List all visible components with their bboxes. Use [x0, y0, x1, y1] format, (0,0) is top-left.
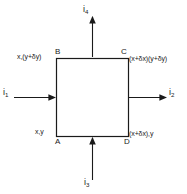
vertex-label-b: B	[55, 48, 60, 56]
coordinate-label-d: (x+δx),y	[129, 130, 153, 137]
coordinate-label-c: (x+δx)(y+δy)	[129, 55, 167, 62]
diagram-canvas	[0, 0, 187, 194]
vertex-label-c: C	[121, 48, 127, 56]
flux-label-i2: i2	[169, 88, 174, 97]
flux-label-i4: i4	[83, 5, 88, 14]
flux-subscript-i2: 2	[171, 91, 174, 98]
flux-label-i1: i1	[3, 88, 8, 97]
current-element-diagram: B C A D x,(y+δy) (x+δx)(y+δy) x,y (x+δx)…	[0, 0, 187, 194]
flux-subscript-i1: 1	[5, 91, 8, 98]
flux-label-i3: i3	[84, 178, 89, 187]
vertex-label-d: D	[124, 138, 130, 146]
coordinate-label-b: x,(y+δy)	[17, 53, 41, 60]
flux-subscript-i3: 3	[86, 181, 89, 188]
coordinate-label-a: x,y	[35, 128, 44, 135]
vertex-label-a: A	[55, 138, 60, 146]
flux-subscript-i4: 4	[85, 8, 88, 15]
element-square	[57, 59, 129, 137]
